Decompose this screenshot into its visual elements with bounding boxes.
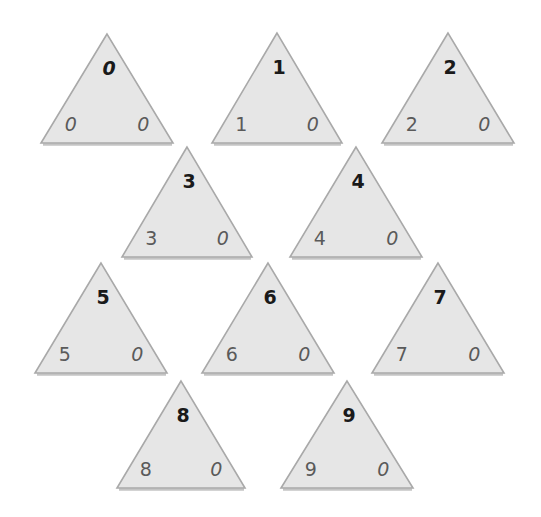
- triangle-bottom-left-number: 0: [65, 113, 77, 135]
- number-triangle: 880: [117, 381, 245, 490]
- number-triangles-diagram: 000110220330440550660770880990: [0, 0, 541, 517]
- triangle-top-number: 7: [433, 286, 446, 308]
- triangle-bottom-left-number: 2: [406, 113, 418, 135]
- number-triangle: 440: [290, 147, 422, 259]
- triangle-bottom-left-number: 6: [226, 343, 238, 365]
- triangle-top-number: 5: [96, 286, 109, 308]
- number-triangle: 550: [35, 263, 167, 375]
- triangle-bottom-right-number: 0: [131, 343, 143, 365]
- triangle-bottom-left-number: 8: [140, 458, 152, 480]
- triangle-top-number: 1: [272, 56, 285, 78]
- triangle-bottom-right-number: 0: [210, 458, 222, 480]
- triangle-bottom-left-number: 4: [314, 227, 326, 249]
- triangle-bottom-left-number: 1: [235, 113, 247, 135]
- triangle-top-number: 9: [342, 404, 355, 426]
- triangle-top-number: 8: [176, 404, 189, 426]
- triangle-top-number: 6: [263, 286, 276, 308]
- triangle-shape: [372, 263, 504, 373]
- triangle-top-number: 4: [351, 170, 364, 192]
- triangle-bottom-right-number: 0: [377, 458, 389, 480]
- triangle-shape: [35, 263, 167, 373]
- number-triangle: 220: [382, 33, 514, 145]
- number-triangle: 990: [281, 381, 413, 490]
- triangle-shape: [382, 33, 514, 143]
- triangle-bottom-left-number: 5: [59, 343, 71, 365]
- triangle-shape: [290, 147, 422, 257]
- triangle-shape: [122, 147, 252, 257]
- number-triangle: 000: [41, 34, 173, 145]
- triangle-bottom-right-number: 0: [298, 343, 310, 365]
- triangle-bottom-left-number: 7: [396, 343, 408, 365]
- number-triangle: 660: [202, 263, 334, 375]
- triangle-bottom-right-number: 0: [478, 113, 490, 135]
- number-triangle: 110: [212, 33, 342, 145]
- triangle-shape: [212, 33, 342, 143]
- triangle-shape: [281, 381, 413, 488]
- triangle-bottom-right-number: 0: [137, 113, 149, 135]
- number-triangle: 770: [372, 263, 504, 375]
- triangle-top-number: 0: [102, 57, 115, 79]
- triangle-bottom-left-number: 9: [305, 458, 317, 480]
- triangle-bottom-left-number: 3: [145, 227, 157, 249]
- triangle-shape: [41, 34, 173, 143]
- triangle-top-number: 2: [443, 56, 456, 78]
- triangle-shape: [117, 381, 245, 488]
- number-triangle: 330: [122, 147, 252, 259]
- triangle-bottom-right-number: 0: [217, 227, 229, 249]
- triangle-top-number: 3: [182, 170, 195, 192]
- triangle-bottom-right-number: 0: [468, 343, 480, 365]
- triangle-bottom-right-number: 0: [307, 113, 319, 135]
- triangle-bottom-right-number: 0: [386, 227, 398, 249]
- triangle-shape: [202, 263, 334, 373]
